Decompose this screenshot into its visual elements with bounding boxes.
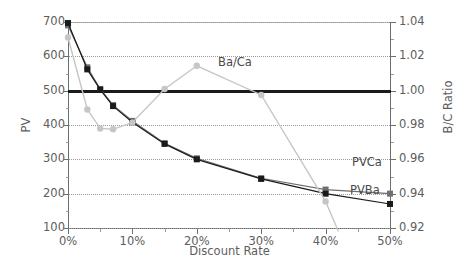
- data-point: [65, 34, 71, 40]
- data-point: [161, 86, 167, 92]
- data-point: [84, 66, 90, 72]
- chart-container: 1002003004005006007000.920.940.960.981.0…: [0, 0, 470, 264]
- data-point: [323, 191, 329, 197]
- data-point: [387, 201, 393, 207]
- series-line: [68, 37, 338, 231]
- series-ba-ca: [65, 34, 339, 231]
- data-point: [387, 191, 393, 197]
- y-axis-left-title: PV: [19, 95, 33, 155]
- data-point: [129, 119, 135, 125]
- data-point: [97, 87, 103, 93]
- data-point: [194, 63, 200, 69]
- data-point: [65, 20, 71, 26]
- series-label-pvba: PVBa: [350, 183, 380, 197]
- series-label-pvca: PVCa: [352, 155, 382, 169]
- data-point: [97, 125, 103, 131]
- series-pvba: [65, 20, 393, 207]
- series-pvca: [65, 22, 393, 196]
- data-point: [162, 141, 168, 147]
- data-point: [322, 198, 328, 204]
- series-label-baca: Ba/Ca: [218, 55, 252, 69]
- series-line: [68, 23, 390, 204]
- series-layer: [0, 0, 470, 264]
- data-point: [194, 156, 200, 162]
- y-axis-right-title: B/C Ratio: [441, 67, 455, 147]
- data-point: [110, 103, 116, 109]
- data-point: [110, 126, 116, 132]
- x-axis-title: Discount Rate: [68, 244, 391, 258]
- data-point: [258, 92, 264, 98]
- data-point: [258, 176, 264, 182]
- data-point: [84, 106, 90, 112]
